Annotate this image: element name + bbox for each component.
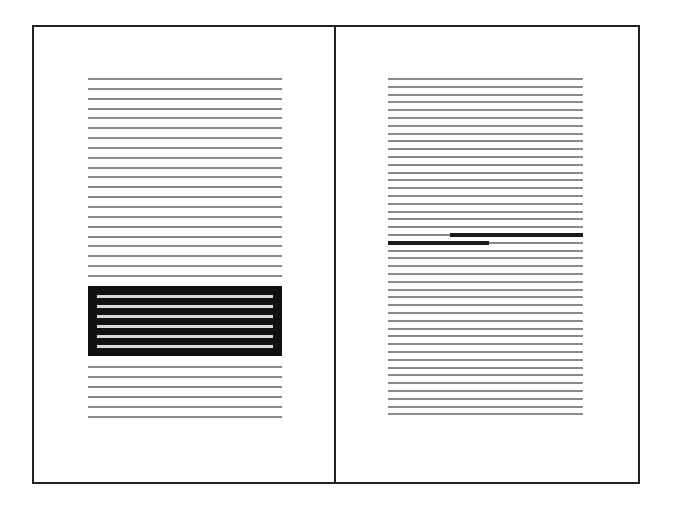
text-line — [388, 304, 583, 306]
text-line — [88, 216, 282, 218]
text-line — [88, 255, 282, 257]
highlighted-text-line — [97, 315, 273, 318]
text-line — [88, 176, 282, 178]
text-line — [88, 186, 282, 188]
text-line — [388, 289, 583, 291]
text-line — [388, 117, 583, 119]
text-line — [88, 275, 282, 277]
text-line — [388, 335, 583, 337]
text-line — [88, 147, 282, 149]
highlighted-text-line — [97, 335, 273, 338]
text-line — [88, 236, 282, 238]
text-line — [388, 328, 583, 330]
text-line — [388, 94, 583, 96]
text-line — [388, 172, 583, 174]
text-line — [88, 265, 282, 267]
text-line — [88, 98, 282, 100]
text-line — [388, 86, 583, 88]
text-line — [388, 234, 450, 236]
text-line — [88, 366, 282, 368]
text-line — [88, 386, 282, 388]
text-line — [388, 211, 583, 213]
text-line — [388, 179, 583, 181]
highlighted-text-line — [388, 241, 489, 245]
text-line — [388, 367, 583, 369]
text-line — [388, 413, 583, 415]
text-line — [88, 406, 282, 408]
text-line — [388, 125, 583, 127]
text-line — [388, 164, 583, 166]
text-line — [388, 374, 583, 376]
text-line — [388, 320, 583, 322]
text-line — [388, 343, 583, 345]
highlighted-text-line — [97, 295, 273, 298]
highlighted-text-line — [97, 345, 273, 348]
text-line — [88, 376, 282, 378]
text-line — [388, 78, 583, 80]
text-line — [388, 218, 583, 220]
text-line — [388, 203, 583, 205]
text-line — [388, 398, 583, 400]
text-line — [88, 245, 282, 247]
text-line — [388, 351, 583, 353]
text-line — [489, 242, 583, 244]
text-line — [388, 296, 583, 298]
text-line — [88, 167, 282, 169]
text-line — [388, 101, 583, 103]
text-line — [388, 265, 583, 267]
text-line — [388, 140, 583, 142]
text-line — [388, 312, 583, 314]
text-line — [388, 382, 583, 384]
highlighted-text-line — [97, 305, 273, 308]
text-line — [88, 137, 282, 139]
text-line — [388, 281, 583, 283]
text-line — [88, 196, 282, 198]
text-line — [388, 273, 583, 275]
text-line — [88, 78, 282, 80]
text-line — [388, 406, 583, 408]
text-line — [388, 187, 583, 189]
page-divider — [334, 25, 336, 482]
text-line — [88, 206, 282, 208]
highlighted-text-line — [450, 233, 583, 237]
text-line — [88, 127, 282, 129]
text-line — [88, 88, 282, 90]
text-line — [88, 157, 282, 159]
text-line — [388, 250, 583, 252]
highlighted-text-line — [97, 325, 273, 328]
text-line — [388, 359, 583, 361]
text-line — [88, 226, 282, 228]
text-line — [388, 109, 583, 111]
text-line — [388, 257, 583, 259]
text-line — [88, 117, 282, 119]
text-line — [388, 195, 583, 197]
text-line — [388, 148, 583, 150]
text-line — [388, 390, 583, 392]
text-line — [388, 226, 583, 228]
text-line — [88, 108, 282, 110]
text-line — [88, 416, 282, 418]
text-line — [388, 133, 583, 135]
text-line — [388, 156, 583, 158]
text-line — [88, 396, 282, 398]
